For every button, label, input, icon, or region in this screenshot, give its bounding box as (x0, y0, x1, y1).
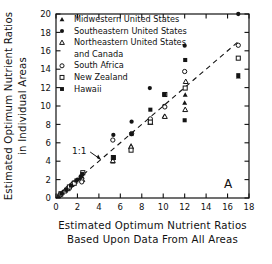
legend-label: Southeastern United States (74, 26, 187, 36)
data-point (236, 43, 240, 47)
data-point (183, 86, 187, 90)
x-tick-label: 2 (75, 202, 80, 212)
y-tick-label: 12 (40, 83, 51, 93)
y-tick-label: 18 (40, 28, 51, 38)
legend-label: Midwestern United States (74, 14, 179, 24)
y-tick-label: 8 (46, 120, 51, 130)
data-point (111, 133, 115, 137)
chart-figure: Estimated Optimum Nutrient Ratiosin Indi… (0, 0, 272, 264)
y-tick-label: 16 (40, 46, 51, 56)
reference-line-label: 1:1 (72, 146, 86, 156)
data-point (148, 108, 152, 112)
y-axis-title-line2: in Individual Areas (17, 57, 28, 155)
data-point (80, 180, 84, 184)
legend-marker-filled-square (60, 87, 64, 91)
reference-line-arrowhead (97, 155, 102, 161)
data-point (183, 107, 188, 111)
legend-marker-open-triangle (60, 40, 65, 44)
data-point (162, 92, 166, 96)
y-axis-title: Estimated Optimum Nutrient Ratiosin Indi… (3, 12, 28, 201)
x-tick-label: 12 (179, 202, 190, 212)
data-point (236, 73, 240, 77)
legend-label: Hawaii (74, 84, 101, 94)
legend-marker-filled-circle (60, 29, 64, 33)
data-point (129, 148, 133, 152)
data-point (148, 120, 152, 124)
scatter-plot: Estimated Optimum Nutrient Ratiosin Indi… (0, 0, 272, 264)
data-point (182, 100, 187, 104)
legend-marker-filled-triangle (60, 17, 65, 21)
y-axis-title-line1: Estimated Optimum Nutrient Ratios (3, 12, 14, 201)
data-point (183, 69, 187, 73)
data-point (236, 12, 240, 16)
y-tick-label: 14 (40, 64, 51, 74)
y-tick-label: 20 (40, 9, 51, 19)
data-point (236, 56, 240, 60)
x-tick-label: 14 (201, 202, 212, 212)
data-point (162, 114, 167, 118)
data-point (80, 172, 84, 176)
x-axis-title-line2: Based Upon Data From All Areas (67, 234, 238, 245)
y-tick-label: 10 (40, 101, 51, 111)
x-axis-title: Estimated Optimum Nutrient RatiosBased U… (58, 220, 247, 245)
data-point (59, 191, 63, 195)
data-point (183, 92, 188, 96)
data-point (183, 79, 188, 83)
y-tick-label: 4 (46, 156, 51, 166)
data-point (183, 118, 187, 122)
panel-label: A (224, 177, 233, 191)
data-point (163, 105, 167, 109)
x-tick-label: 4 (96, 202, 101, 212)
legend-label: New Zealand (74, 72, 128, 82)
data-point (74, 178, 78, 182)
y-tick-label: 0 (46, 193, 51, 203)
x-tick-label: 18 (244, 202, 255, 212)
x-tick-label: 10 (158, 202, 169, 212)
data-point (129, 120, 133, 124)
data-point (130, 132, 134, 136)
y-tick-label: 6 (46, 138, 51, 148)
data-point (111, 138, 115, 142)
legend: Midwestern United StatesSoutheastern Uni… (60, 14, 187, 94)
x-tick-label: 6 (118, 202, 123, 212)
data-point (148, 86, 152, 90)
data-point (64, 188, 68, 192)
legend-label: South Africa (74, 60, 124, 70)
x-axis-title-line1: Estimated Optimum Nutrient Ratios (58, 220, 247, 231)
legend-marker-open-square (60, 75, 64, 79)
x-tick-label: 8 (139, 202, 144, 212)
legend-marker-open-circle (60, 64, 64, 68)
x-tick-label: 0 (53, 202, 58, 212)
legend-label: and Canada (74, 49, 123, 59)
data-point (111, 156, 115, 160)
data-point (69, 184, 73, 188)
legend-label: Northeastern United States (74, 37, 186, 47)
x-tick-label: 16 (222, 202, 233, 212)
panel-label-text: A (224, 177, 233, 191)
data-point (183, 58, 187, 62)
y-tick-label: 2 (46, 175, 51, 185)
